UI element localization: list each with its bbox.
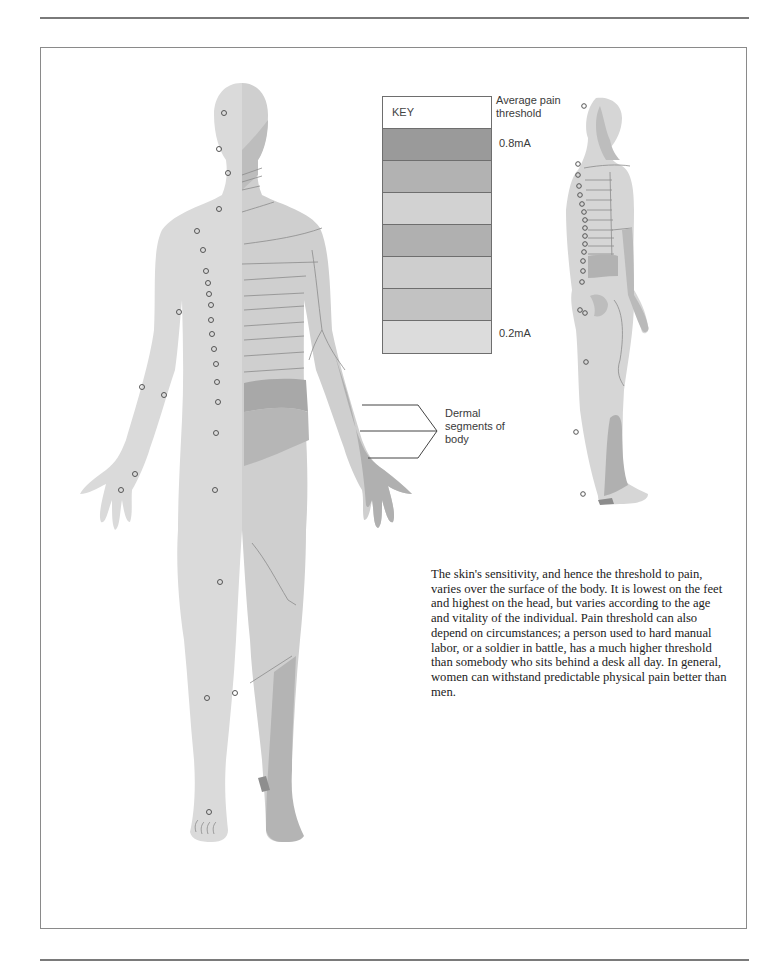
measurement-point (582, 104, 587, 109)
measurement-point (233, 691, 238, 696)
measurement-point (576, 162, 581, 167)
measurement-point (581, 492, 586, 497)
key-band-3 (383, 193, 491, 225)
key-band-2 (383, 161, 491, 193)
key-band-1 (383, 129, 491, 161)
front-figure-left-half (80, 83, 242, 842)
callout-bracket (360, 405, 437, 458)
pain-threshold-key: KEY (382, 96, 492, 354)
side-lower-back-band (588, 255, 618, 279)
key-band-7 (383, 321, 491, 353)
bottom-rule (40, 959, 749, 961)
dermal-segments-label: Dermal segments of body (445, 407, 515, 446)
caption-paragraph: The skin's sensitivity, and hence the th… (431, 567, 731, 699)
key-band-6 (383, 289, 491, 321)
side-figure (566, 98, 649, 505)
key-band-5 (383, 257, 491, 289)
key-title: Average pain threshold (496, 94, 576, 120)
front-figure (80, 83, 412, 842)
key-min-label: 0.2mA (499, 327, 531, 339)
key-band-4 (383, 225, 491, 257)
front-abdomen-band-dark (244, 379, 308, 412)
key-heading: KEY (383, 97, 491, 129)
key-max-label: 0.8mA (499, 137, 531, 149)
measurement-point (574, 430, 579, 435)
